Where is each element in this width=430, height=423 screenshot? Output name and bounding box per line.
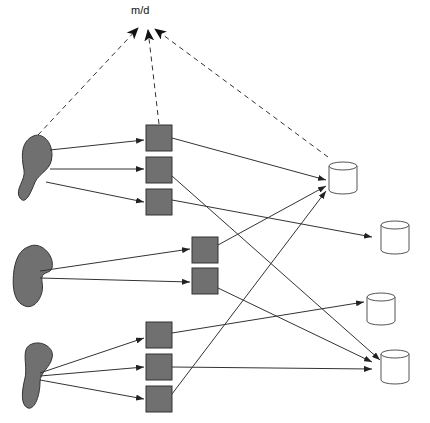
- processor-1: [146, 125, 172, 151]
- source-blob-1: [18, 135, 52, 200]
- processor-nodes: [146, 125, 218, 412]
- database-icon-4: [381, 350, 409, 384]
- processor-7: [146, 354, 172, 380]
- processor-2: [146, 157, 172, 183]
- processor-5: [192, 268, 218, 294]
- diagram-canvas: m/d: [0, 0, 430, 423]
- database-icon-3: [367, 293, 395, 325]
- processor-8: [146, 386, 172, 412]
- database-icon-1: [329, 162, 357, 194]
- database-icon-2: [381, 221, 409, 254]
- source-blobs: [13, 135, 52, 408]
- diagram-svg: [0, 0, 430, 423]
- source-blob-2: [13, 245, 52, 306]
- processor-4: [192, 237, 218, 263]
- processor-3: [146, 189, 172, 215]
- processor-6: [146, 322, 172, 348]
- dashed-links: [38, 28, 328, 157]
